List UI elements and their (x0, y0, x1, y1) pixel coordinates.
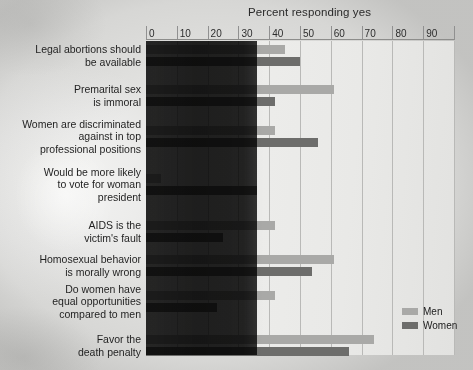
x-tick-mark-60 (331, 26, 332, 40)
legend: MenWomen (402, 306, 457, 334)
legend-item-men[interactable]: Men (402, 306, 457, 317)
category-label-6: Do women haveequal opportunitiescompared… (6, 283, 141, 320)
category-label-line: compared to men (6, 308, 141, 320)
category-label-line: Homosexual behavior (6, 253, 141, 265)
legend-swatch-women (402, 322, 418, 329)
category-label-5: Homosexual behavioris morally wrong (6, 253, 141, 278)
x-tick-mark-70 (362, 26, 363, 40)
category-label-line: Do women have (6, 283, 141, 295)
category-label-line: professional positions (6, 143, 141, 155)
bar-men-row-3 (146, 174, 161, 183)
x-tick-mark-100 (454, 26, 455, 40)
chart-page: Percent responding yes 01020304050607080… (0, 0, 473, 370)
bar-women-row-1 (146, 97, 275, 106)
category-label-line: Legal abortions should (6, 43, 141, 55)
category-label-1: Premarital sexis immoral (6, 83, 141, 108)
bar-men-row-1 (146, 85, 334, 94)
category-label-line: Favor the (6, 333, 141, 345)
category-label-line: Premarital sex (6, 83, 141, 95)
x-tick-mark-10 (177, 26, 178, 40)
category-label-line: to vote for woman (6, 178, 141, 190)
bar-women-row-7 (146, 347, 349, 356)
category-label-3: Would be more likelyto vote for womanpre… (6, 166, 141, 203)
category-label-line: president (6, 191, 141, 203)
x-axis-line (146, 39, 454, 40)
bar-women-row-0 (146, 57, 300, 66)
legend-swatch-men (402, 308, 418, 315)
chart-title: Percent responding yes (248, 6, 371, 18)
category-label-line: victim's fault (6, 232, 141, 244)
x-tick-mark-0 (146, 26, 147, 40)
category-label-line: is immoral (6, 96, 141, 108)
legend-label-men: Men (423, 306, 442, 317)
category-label-line: against in top (6, 130, 141, 142)
bar-women-row-5 (146, 267, 312, 276)
category-label-line: Women are discriminated (6, 118, 141, 130)
bar-women-row-2 (146, 138, 318, 147)
category-label-2: Women are discriminatedagainst in toppro… (6, 118, 141, 155)
x-tick-mark-50 (300, 26, 301, 40)
category-label-line: equal opportunities (6, 295, 141, 307)
bar-women-row-3 (146, 186, 257, 195)
bar-men-row-0 (146, 45, 285, 54)
bar-women-row-4 (146, 233, 223, 242)
bar-men-row-5 (146, 255, 334, 264)
bar-men-row-2 (146, 126, 275, 135)
bar-men-row-6 (146, 291, 275, 300)
bar-men-row-7 (146, 335, 374, 344)
x-tick-mark-90 (423, 26, 424, 40)
category-label-7: Favor thedeath penalty (6, 333, 141, 358)
x-tick-mark-20 (208, 26, 209, 40)
x-tick-mark-80 (392, 26, 393, 40)
category-label-line: Would be more likely (6, 166, 141, 178)
category-label-line: be available (6, 56, 141, 68)
gridline-70 (362, 41, 363, 355)
category-label-line: is morally wrong (6, 266, 141, 278)
category-label-column: Legal abortions shouldbe availablePremar… (3, 41, 141, 355)
category-label-line: death penalty (6, 346, 141, 358)
category-label-4: AIDS is thevictim's fault (6, 219, 141, 244)
bar-women-row-6 (146, 303, 217, 312)
x-tick-mark-30 (238, 26, 239, 40)
x-tick-mark-40 (269, 26, 270, 40)
legend-label-women: Women (423, 320, 457, 331)
category-label-line: AIDS is the (6, 219, 141, 231)
bar-men-row-4 (146, 221, 275, 230)
category-label-0: Legal abortions shouldbe available (6, 43, 141, 68)
gridline-80 (392, 41, 393, 355)
legend-item-women[interactable]: Women (402, 320, 457, 331)
